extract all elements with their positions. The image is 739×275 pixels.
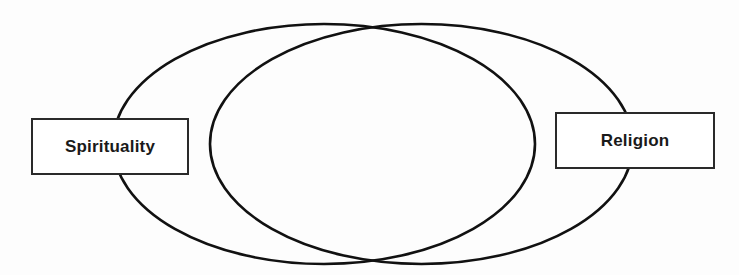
spirituality-label: Spirituality	[65, 137, 155, 157]
venn-diagram: Spirituality Religion	[0, 0, 739, 275]
religion-label-box: Religion	[555, 112, 715, 169]
spirituality-label-box: Spirituality	[31, 118, 189, 175]
religion-label: Religion	[601, 131, 670, 151]
